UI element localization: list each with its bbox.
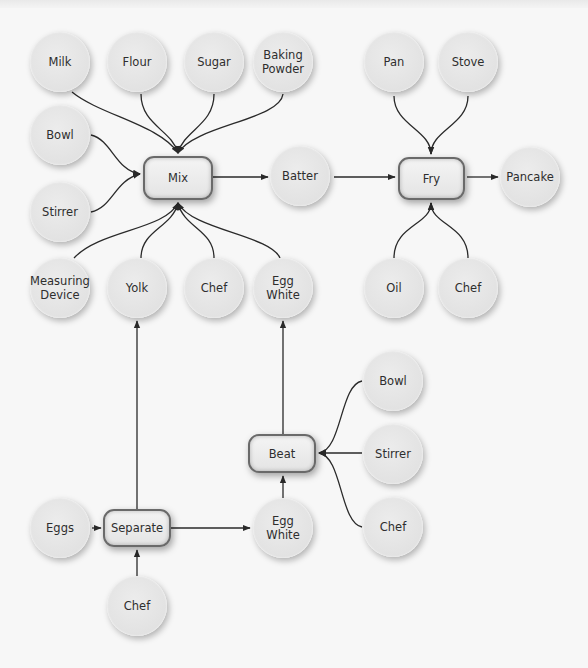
- node-pancake: Pancake: [500, 147, 560, 207]
- node-chef-beat: Chef: [363, 497, 423, 557]
- node-flour: Flour: [107, 32, 167, 92]
- node-bowl-beat: Bowl: [363, 351, 423, 411]
- node-yolk: Yolk: [107, 258, 167, 318]
- edge-stirrer-mix: [91, 174, 140, 212]
- process-separate: Separate: [103, 509, 171, 547]
- edge-eggwhite-mix: [178, 203, 280, 258]
- node-bowl-mix: Bowl: [30, 105, 90, 165]
- node-pan: Pan: [364, 32, 424, 92]
- node-stirrer-beat: Stirrer: [363, 424, 423, 484]
- edge-chef-mix: [178, 203, 214, 258]
- node-baking-powder: Baking Powder: [253, 32, 313, 92]
- edge-bakingpowder-mix: [178, 94, 283, 153]
- node-measuring-device: Measuring Device: [30, 258, 90, 318]
- edge-cheffry-fry: [431, 203, 468, 258]
- edge-stove-fry: [431, 96, 468, 154]
- node-chef-fry: Chef: [438, 258, 498, 318]
- node-egg-white-mix: Egg White: [253, 258, 313, 318]
- edge-chefbeat-beat: [319, 453, 362, 527]
- node-sugar: Sugar: [184, 32, 244, 92]
- node-oil: Oil: [364, 258, 424, 318]
- edge-flour-mix: [141, 94, 178, 153]
- edge-bowl-mix: [91, 135, 140, 174]
- process-beat: Beat: [248, 434, 316, 473]
- node-chef-sep: Chef: [107, 576, 167, 636]
- edge-bowlbeat-beat: [319, 381, 362, 453]
- process-mix: Mix: [143, 156, 213, 200]
- edge-sugar-mix: [178, 94, 214, 153]
- edge-oil-fry: [394, 203, 431, 258]
- node-milk: Milk: [30, 32, 90, 92]
- node-eggs: Eggs: [30, 498, 90, 558]
- node-batter: Batter: [270, 146, 330, 206]
- node-stirrer-mix: Stirrer: [30, 182, 90, 242]
- process-fry: Fry: [398, 157, 465, 200]
- node-egg-white-sep: Egg White: [253, 498, 313, 558]
- edge-pan-fry: [394, 96, 431, 154]
- edges-layer: [0, 0, 588, 668]
- node-chef-mix: Chef: [184, 258, 244, 318]
- node-stove: Stove: [438, 32, 498, 92]
